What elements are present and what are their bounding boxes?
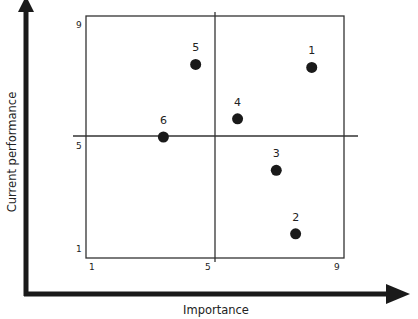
x-tick-5: 5 — [205, 262, 211, 272]
x-axis-title: Importance — [183, 303, 249, 317]
x-tick-1: 1 — [89, 262, 95, 272]
data-point-label-4: 4 — [234, 96, 241, 109]
x-axis-arrow — [24, 284, 410, 304]
y-tick-9: 9 — [76, 20, 82, 30]
data-point-6 — [158, 132, 169, 143]
data-point-4 — [232, 113, 243, 124]
data-point-5 — [190, 59, 201, 70]
importance-performance-chart: 9 5 1 1 5 9 Importance Current performan… — [0, 0, 418, 319]
data-point-1 — [306, 62, 317, 73]
data-point-label-1: 1 — [308, 44, 315, 57]
y-tick-5: 5 — [76, 141, 82, 151]
data-point-2 — [290, 228, 301, 239]
y-axis-title: Current performance — [5, 92, 19, 213]
x-tick-9: 9 — [334, 262, 340, 272]
data-point-label-2: 2 — [292, 211, 299, 224]
data-point-3 — [271, 165, 282, 176]
data-point-label-6: 6 — [160, 114, 167, 127]
y-axis-arrow — [18, 0, 34, 296]
y-tick-1: 1 — [76, 244, 82, 254]
data-point-label-5: 5 — [192, 41, 199, 54]
data-points: 123456 — [158, 41, 317, 239]
data-point-label-3: 3 — [273, 147, 280, 160]
